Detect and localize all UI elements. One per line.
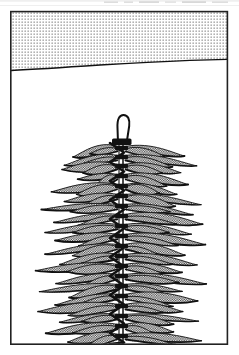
botanical-figure <box>0 0 239 355</box>
apex-node-collar <box>112 139 132 146</box>
illustration-canvas <box>0 0 239 355</box>
stem-node <box>115 294 128 299</box>
scan-artifact-strip <box>0 1 239 6</box>
stem-node <box>115 254 128 259</box>
stem-node <box>115 274 128 279</box>
